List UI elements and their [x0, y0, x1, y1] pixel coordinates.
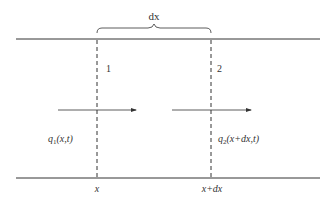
outflow-label: q2(x+dx,t) — [218, 133, 260, 146]
dx-brace-label: dx — [149, 10, 161, 22]
section-2-label: 2 — [217, 63, 222, 74]
position-x-plus-dx-label: x+dx — [201, 183, 223, 194]
dx-brace — [97, 24, 211, 33]
section-1-label: 1 — [106, 63, 111, 74]
position-x-label: x — [94, 183, 100, 194]
inflow-label: q1(x,t) — [48, 133, 74, 146]
control-volume-diagram: dx 1 2 q1(x,t) q2(x+dx,t) x x+dx — [0, 0, 332, 203]
